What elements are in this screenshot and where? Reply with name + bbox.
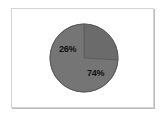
pie-slice-0[interactable] — [84, 24, 118, 60]
pie-chart-svg — [12, 9, 155, 109]
pie-slice-0-label: 26% — [59, 45, 76, 54]
pie-chart[interactable]: 26% 74% — [12, 9, 155, 109]
figure-root: 26% 74% — [0, 0, 166, 118]
pie-slice-1-label: 74% — [87, 69, 104, 78]
chart-frame: 26% 74% — [11, 8, 154, 108]
